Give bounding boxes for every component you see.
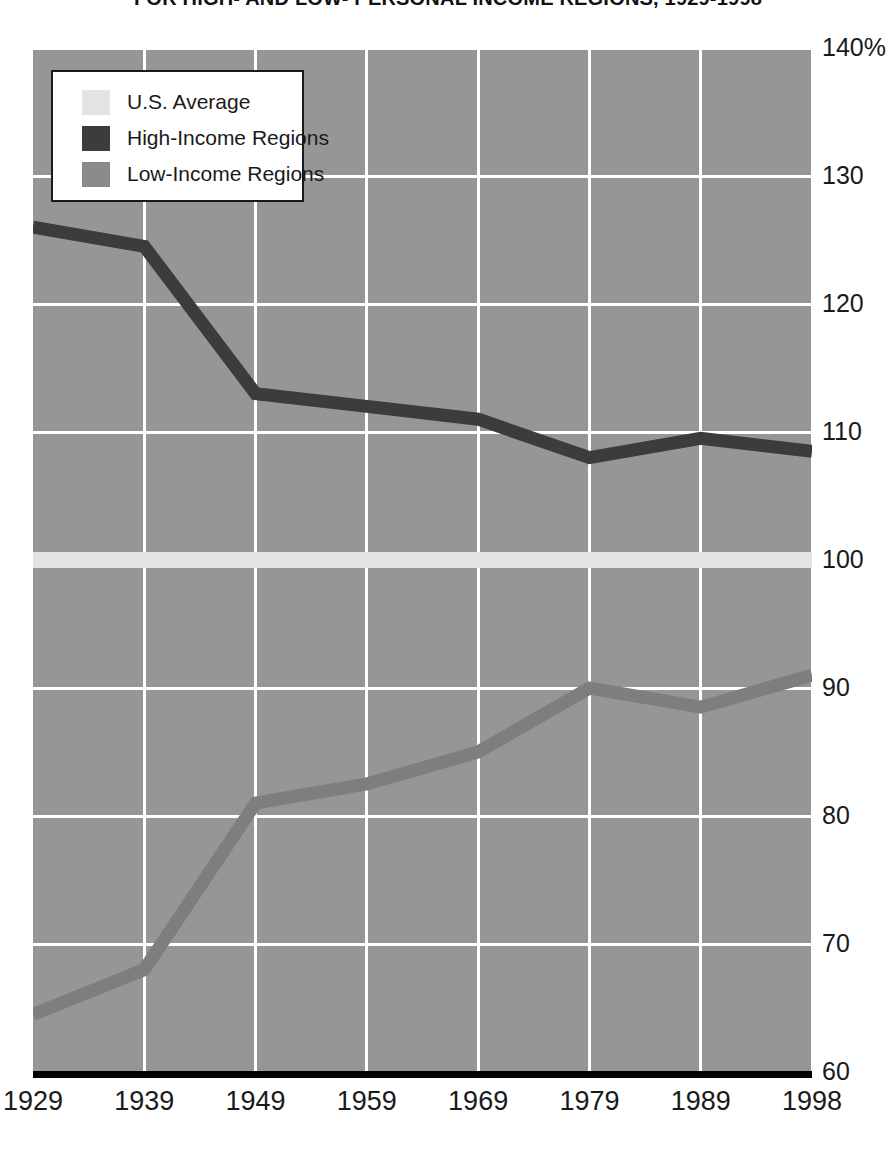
legend-item-label: U.S. Average [127, 90, 250, 114]
chart-legend: U.S. AverageHigh-Income RegionsLow-Incom… [51, 70, 304, 202]
legend-item[interactable]: U.S. Average [53, 84, 302, 120]
y-axis-tick-label: 70 [822, 931, 850, 956]
x-axis-tick-label: 1998 [782, 1088, 842, 1115]
series-line [33, 227, 812, 457]
y-axis-tick-label: 120 [822, 291, 864, 316]
y-axis-tick-label: 110 [822, 419, 862, 444]
legend-swatch [82, 90, 110, 115]
y-axis-tick-label: 140% [822, 35, 886, 60]
legend-item[interactable]: Low-Income Regions [53, 156, 302, 192]
x-axis-tick-label: 1929 [3, 1088, 63, 1115]
legend-swatch [82, 126, 110, 151]
legend-item[interactable]: High-Income Regions [53, 120, 302, 156]
x-axis-baseline [33, 1071, 812, 1078]
x-axis-tick-label: 1989 [671, 1088, 731, 1115]
legend-item-label: High-Income Regions [127, 126, 329, 150]
chart-title: FOR HIGH- AND LOW- PERSONAL INCOME REGIO… [0, 0, 896, 9]
x-axis-tick-label: 1949 [226, 1088, 286, 1115]
y-axis-tick-label: 100 [822, 547, 864, 572]
legend-swatch [82, 162, 110, 187]
y-axis-tick-label: 80 [822, 803, 850, 828]
x-axis-tick-label: 1969 [448, 1088, 508, 1115]
y-axis-tick-label: 90 [822, 675, 850, 700]
series-line [33, 675, 812, 1014]
x-axis-tick-label: 1939 [114, 1088, 174, 1115]
legend-item-label: Low-Income Regions [127, 162, 324, 186]
y-axis-tick-label: 130 [822, 163, 864, 188]
x-axis-tick-label: 1959 [337, 1088, 397, 1115]
y-axis-tick-label: 60 [822, 1059, 850, 1084]
x-axis-tick-label: 1979 [559, 1088, 619, 1115]
